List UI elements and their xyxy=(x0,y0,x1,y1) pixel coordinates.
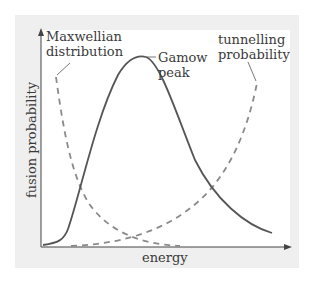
x-axis-label: energy xyxy=(142,251,188,265)
maxwellian-label-1: Maxwellian xyxy=(46,30,122,44)
y-axis-label: fusion probability xyxy=(25,82,39,198)
gamow-label-1: Gamow xyxy=(158,51,207,65)
gamow-label-2: peak xyxy=(158,66,190,80)
maxwellian-label-2: distribution xyxy=(46,45,123,59)
tunnelling-label-2: probability xyxy=(218,48,290,62)
tunnelling-label-1: tunnelling xyxy=(218,33,285,47)
